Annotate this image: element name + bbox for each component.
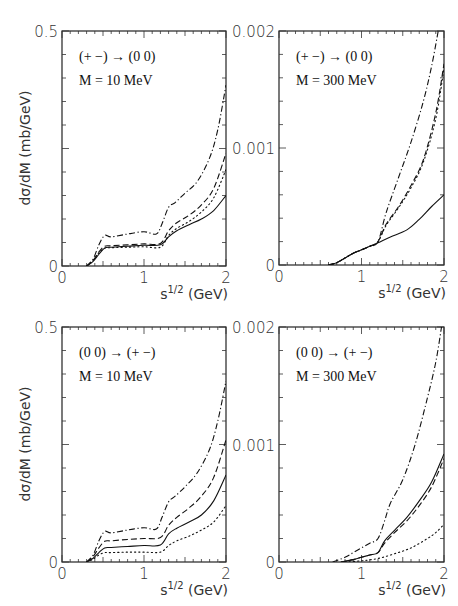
process-label: (+ −) → (0 0) — [79, 49, 156, 65]
x-tick-label: 0 — [57, 565, 67, 583]
plot-frame — [279, 327, 444, 562]
x-axis-title-sup: 1/2 — [167, 580, 183, 591]
series-dotted — [87, 170, 226, 266]
y-tick-label: 0 — [48, 258, 58, 276]
x-tick-label: 0 — [274, 268, 284, 286]
y-tick-label: 0.001 — [232, 140, 275, 158]
y-tick-label: 0.002 — [232, 319, 275, 337]
y-tick-label: 0.5 — [34, 23, 58, 41]
y-axis-title-bottom: dσ/dM (mb/GeV) — [17, 386, 33, 501]
x-axis-title-unit: (GeV) — [184, 582, 228, 598]
mass-label: M = 10 MeV — [79, 369, 153, 384]
process-label: (+ −) → (0 0) — [296, 49, 373, 65]
x-axis-title-unit: (GeV) — [402, 285, 446, 301]
x-axis-title-unit: (GeV) — [402, 582, 446, 598]
series-dotted — [87, 506, 226, 562]
x-tick-label: 0 — [57, 269, 67, 287]
plot-frame — [62, 327, 226, 562]
x-axis-title: s1/2 (GeV) — [160, 284, 228, 302]
mass-label: M = 10 MeV — [79, 73, 153, 88]
series-solid — [329, 195, 445, 265]
y-tick-label: 0 — [48, 554, 58, 572]
x-tick-label: 1 — [139, 565, 149, 583]
series-dash-dot — [87, 85, 226, 266]
series-dotted — [329, 68, 445, 265]
panel-bottom-right: 01200.0010.002s1/2 (GeV)(0 0) → (+ −)M =… — [232, 319, 449, 598]
x-tick-label: 2 — [221, 565, 231, 583]
x-axis-title-sup: 1/2 — [167, 284, 183, 295]
plot-frame — [279, 31, 444, 265]
x-tick-label: 2 — [439, 565, 449, 583]
series-dashed — [329, 64, 445, 265]
series-dashed — [341, 459, 444, 562]
series-solid — [87, 196, 226, 267]
x-tick-label: 2 — [221, 269, 231, 287]
x-tick-label: 1 — [357, 565, 367, 583]
y-tick-label: 0.001 — [232, 437, 275, 455]
x-tick-label: 1 — [357, 268, 367, 286]
series-solid — [341, 454, 444, 562]
x-axis-title: s1/2 (GeV) — [378, 580, 446, 598]
series-dash-dot — [333, 327, 442, 562]
y-tick-label: 0.5 — [34, 319, 58, 337]
y-tick-label: 0 — [265, 257, 275, 275]
x-axis-title-sup: 1/2 — [385, 580, 401, 591]
process-label: (0 0) → (+ −) — [79, 345, 156, 361]
x-tick-label: 1 — [139, 269, 149, 287]
y-tick-label: 0.002 — [232, 23, 275, 41]
y-axis-title-top: dσ/dM (mb/GeV) — [17, 90, 33, 205]
plot-frame — [62, 31, 226, 266]
x-axis-title-base: s — [378, 582, 385, 598]
y-tick-label: 0 — [265, 554, 275, 572]
series-solid — [87, 475, 226, 562]
x-axis-title: s1/2 (GeV) — [378, 283, 446, 301]
x-axis-title-base: s — [160, 582, 167, 598]
x-axis-title-unit: (GeV) — [184, 286, 228, 302]
figure: dσ/dM (mb/GeV) dσ/dM (mb/GeV) 01200.5s1/… — [0, 0, 458, 606]
x-tick-label: 2 — [439, 268, 449, 286]
mass-label: M = 300 MeV — [296, 369, 377, 384]
process-label: (0 0) → (+ −) — [296, 345, 373, 361]
x-axis-title-base: s — [378, 285, 385, 301]
panel-top-left: 01200.5s1/2 (GeV)(+ −) → (0 0)M = 10 MeV — [34, 23, 231, 302]
mass-label: M = 300 MeV — [296, 73, 377, 88]
x-axis-title-base: s — [160, 286, 167, 302]
series-dash-dot — [87, 381, 226, 562]
series-dashed — [87, 153, 226, 266]
x-tick-label: 0 — [274, 565, 284, 583]
panel-top-right: 01200.0010.002s1/2 (GeV)(+ −) → (0 0)M =… — [232, 23, 449, 301]
panel-bottom-left: 01200.5s1/2 (GeV)(0 0) → (+ −)M = 10 MeV — [34, 319, 231, 598]
x-axis-title: s1/2 (GeV) — [160, 580, 228, 598]
x-axis-title-sup: 1/2 — [385, 283, 401, 294]
